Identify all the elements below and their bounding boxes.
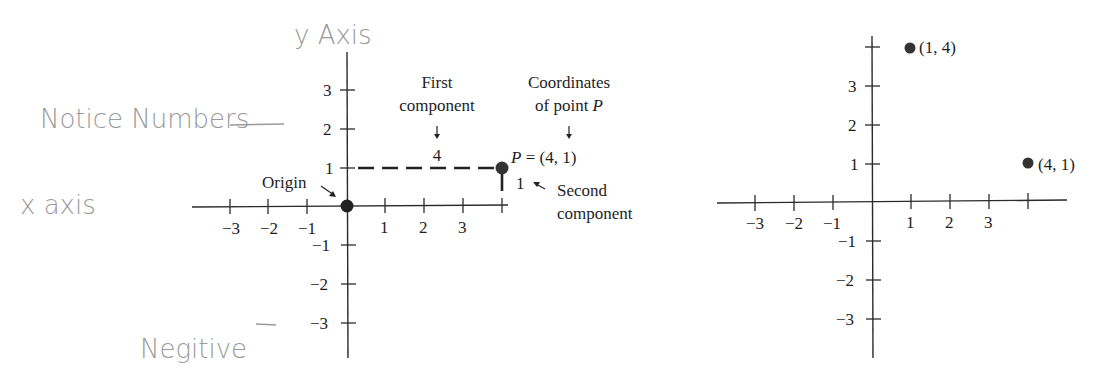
right-x-tick-label: 2	[945, 213, 954, 232]
coordinates-arrow-icon	[566, 126, 572, 139]
left-y-tick-label: 1	[325, 159, 334, 178]
handwritten-dash	[256, 324, 276, 325]
right-y-axis	[872, 36, 873, 358]
first-component-label-line1: First	[421, 73, 452, 92]
point-1-4	[905, 43, 916, 54]
right-graph: −3 −2 −1 1 2 3 3 2 1 −1 −2 −3 (1, 4) (4,…	[717, 36, 1075, 358]
left-y-tick-label: 2	[323, 120, 332, 139]
right-x-tick-label: −2	[785, 214, 803, 233]
origin-point	[341, 200, 354, 213]
coordinates-label-line2: of point P	[535, 96, 603, 115]
right-x-axis	[717, 200, 1067, 203]
handwritten-x-axis: x axis	[20, 190, 96, 220]
right-y-tick-label: −2	[836, 271, 854, 290]
first-component-arrow-icon	[434, 126, 440, 139]
left-graph: −3 −2 −1 1 2 3 3 2 1 −1 −2 −3 Origin	[192, 52, 633, 358]
point-4-1-label: (4, 1)	[1038, 155, 1075, 174]
right-y-tick-label: 3	[848, 77, 857, 96]
handwritten-notice-numbers: Notice Numbers	[40, 104, 249, 134]
left-x-tick-label: 2	[419, 218, 428, 237]
right-y-tick-label: −3	[836, 310, 854, 329]
point-p-label: P = (4, 1)	[510, 148, 576, 167]
second-component-label-line2: component	[557, 204, 633, 223]
point-4-1	[1023, 158, 1034, 169]
right-y-tick-label: 1	[850, 155, 859, 174]
left-x-tick-label: 3	[458, 218, 467, 237]
second-component-label-line1: Second	[557, 181, 608, 200]
left-x-tick-label: −2	[260, 219, 278, 238]
handwritten-y-axis: y Axis	[294, 20, 372, 50]
right-x-tick-label: 1	[906, 213, 915, 232]
right-x-tick-label: −3	[746, 214, 764, 233]
handwritten-negative: Negitive	[140, 334, 247, 364]
left-x-tick-label: −3	[222, 219, 240, 238]
origin-label: Origin	[262, 173, 307, 192]
point-1-4-label: (1, 4)	[919, 38, 956, 57]
left-x-tick-label: 1	[380, 218, 389, 237]
second-component-arrow-icon	[533, 182, 545, 189]
handwritten-underline	[230, 124, 284, 125]
coordinate-diagram: y Axis Notice Numbers x axis Negitive −3…	[0, 0, 1103, 391]
first-component-value: 4	[433, 146, 442, 165]
left-y-tick-label: −2	[310, 275, 328, 294]
left-y-tick-label: −1	[312, 236, 330, 255]
point-p	[496, 162, 509, 175]
left-y-tick-label: 3	[323, 81, 332, 100]
second-component-value: 1	[516, 174, 525, 193]
right-y-tick-label: 2	[848, 116, 857, 135]
coordinates-label-line1: Coordinates	[528, 73, 610, 92]
right-x-tick-label: −1	[823, 214, 841, 233]
left-y-tick-label: −3	[310, 314, 328, 333]
right-y-tick-label: −1	[838, 232, 856, 251]
right-x-tick-label: 3	[984, 213, 993, 232]
origin-arrow-icon	[321, 186, 336, 197]
first-component-label-line2: component	[399, 96, 475, 115]
